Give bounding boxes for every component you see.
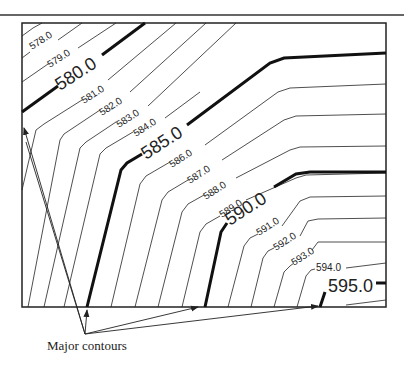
label-587: 587.0 — [185, 163, 212, 186]
arrow-to-590 — [85, 307, 198, 334]
label-595: 595.0 — [328, 276, 373, 296]
label-588: 588.0 — [201, 179, 228, 202]
contour-labels: 578.0 579.0 580.0 581.0 582.0 583.0 584.… — [27, 29, 373, 296]
label-582: 582.0 — [97, 95, 124, 118]
contour-595-major — [320, 292, 325, 307]
label-594: 594.0 — [316, 262, 341, 273]
label-586: 586.0 — [167, 147, 194, 170]
arrow-to-595 — [85, 306, 318, 334]
contour-590-major — [205, 223, 227, 307]
contour-588 — [158, 195, 204, 307]
arrow-line-alt — [26, 142, 85, 334]
caption-major-contours: Major contours — [47, 338, 127, 353]
contour-581 — [22, 100, 82, 190]
arrow-to-585 — [85, 310, 87, 334]
contour-583 — [44, 122, 116, 307]
label-591: 591.0 — [254, 215, 281, 238]
label-592: 592.0 — [271, 230, 298, 253]
contour-592 — [251, 248, 274, 307]
contour-587 — [135, 180, 188, 307]
contour-580-major — [22, 86, 58, 112]
contour-579 — [22, 64, 48, 82]
contour-585-major — [87, 154, 142, 307]
label-593: 593.0 — [289, 245, 316, 268]
contour-594 — [297, 269, 315, 307]
label-581: 581.0 — [79, 83, 106, 106]
contour-584 — [64, 132, 133, 307]
label-578: 578.0 — [27, 29, 54, 52]
contour-596 — [346, 300, 386, 305]
contour-593 — [274, 263, 294, 307]
contour-diagram: 578.0 579.0 580.0 581.0 582.0 583.0 584.… — [0, 0, 409, 370]
